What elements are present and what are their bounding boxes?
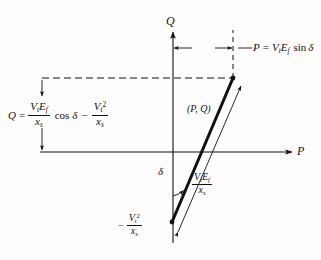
p-equation-equals: = (263, 41, 269, 53)
q-equation-den-x-sub: s (40, 121, 43, 129)
q-equation-angle: δ (72, 109, 77, 121)
origin-offset-fraction: Vt2xs (127, 213, 142, 238)
delta-angle-label: δ (158, 166, 163, 177)
origin-offset-label: −Vt2xs (118, 213, 142, 238)
q-equation-minus: − (81, 109, 87, 121)
diagram-canvas (0, 0, 321, 260)
p-equation-angle: δ (308, 41, 313, 53)
q-equation-fraction-2: Vt2xs (92, 101, 108, 129)
q-equation-t2-den-x-sub: s (101, 121, 104, 129)
p-equation-v: V (272, 41, 279, 53)
q-equation-num-e: E (39, 100, 46, 112)
origin-offset-den-x-sub: s (135, 230, 138, 237)
point-pq-label: (P, Q) (187, 104, 211, 114)
q-equation-label: Q=VtEfxscosδ−Vt2xs (8, 101, 108, 129)
q-equation-fraction-1: VtEfxs (28, 101, 50, 129)
vector-magnitude-num-e-sub: f (208, 176, 210, 183)
vector-magnitude-den-x-sub: s (203, 189, 206, 196)
p-equation-trig: sin (293, 41, 306, 53)
vector-magnitude-fraction: VtEfxs (192, 172, 212, 197)
vector-magnitude-label: VtEfxs (192, 172, 212, 197)
p-equation-lhs: P (253, 41, 260, 53)
p-axis-label: P (297, 145, 304, 157)
power-angle-diagram: Q P P=VtEfsinδ Q=VtEfxscosδ−Vt2xs (P, Q)… (0, 0, 321, 260)
q-equation-trig: cos (55, 109, 70, 121)
q-equation-num-v: V (30, 100, 37, 112)
origin-offset-num-sup: 2 (137, 212, 140, 219)
p-equation-e-sub: f (287, 47, 289, 55)
q-equation-num-e-sub: f (46, 106, 48, 114)
q-equation-lhs: Q (8, 109, 16, 121)
phasor-tail-point (170, 220, 175, 225)
q-equation-t2-num-sup: 2 (102, 101, 106, 109)
origin-offset-minus: − (118, 220, 124, 231)
phasor-tip-point (231, 76, 236, 81)
q-axis-label: Q (166, 15, 175, 27)
q-equation-equals: = (19, 109, 25, 121)
phasor-vector-line (172, 78, 233, 222)
p-equation-label: P=VtEfsinδ (253, 42, 313, 55)
